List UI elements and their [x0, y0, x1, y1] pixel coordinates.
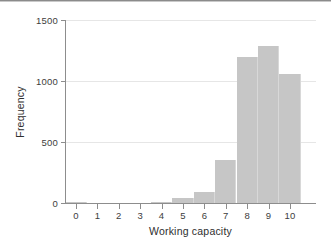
gridline-1500: [65, 20, 316, 21]
y-axis-line: [65, 20, 66, 204]
bar-9: [258, 46, 279, 203]
x-tick-label-0: 0: [64, 211, 88, 221]
x-tick-8: [247, 204, 248, 209]
x-tick-label-8: 8: [235, 211, 259, 221]
y-tick-1000: [61, 81, 66, 82]
x-tick-label-1: 1: [85, 211, 109, 221]
x-tick-2: [119, 204, 120, 209]
x-tick-0: [76, 204, 77, 209]
bar-6: [194, 192, 215, 203]
x-tick-10: [290, 204, 291, 209]
x-tick-9: [269, 204, 270, 209]
x-tick-label-7: 7: [214, 211, 238, 221]
y-axis-title: Frequency: [14, 20, 26, 204]
x-tick-4: [162, 204, 163, 209]
bar-8: [237, 57, 258, 203]
x-axis-title: Working capacity: [65, 225, 316, 237]
y-tick-500: [61, 142, 66, 143]
x-tick-label-9: 9: [257, 211, 281, 221]
x-tick-5: [183, 204, 184, 209]
y-tick-1500: [61, 20, 66, 21]
bar-7: [215, 160, 236, 203]
x-tick-label-10: 10: [278, 211, 302, 221]
x-tick-6: [204, 204, 205, 209]
x-tick-label-2: 2: [107, 211, 131, 221]
x-axis-line: [65, 203, 316, 204]
histogram-figure: 1500 1000 500 0 0 1 2 3 4 5 6 7 8 9 10 W…: [0, 0, 331, 243]
y-tick-0: [61, 203, 66, 204]
x-tick-label-4: 4: [150, 211, 174, 221]
x-tick-7: [226, 204, 227, 209]
bar-10: [279, 74, 300, 203]
x-tick-1: [97, 204, 98, 209]
x-tick-label-3: 3: [128, 211, 152, 221]
plot-area: 1500 1000 500 0 0 1 2 3 4 5 6 7 8 9 10 W…: [0, 0, 331, 243]
x-tick-3: [140, 204, 141, 209]
x-tick-label-5: 5: [171, 211, 195, 221]
x-tick-label-6: 6: [192, 211, 216, 221]
